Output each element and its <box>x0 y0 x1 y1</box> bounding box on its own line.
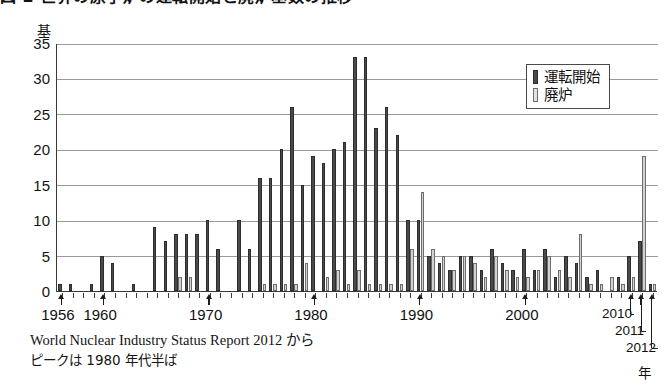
x-tick-1964 <box>147 293 148 298</box>
note-line: ピークは 1980 年代半ば <box>30 351 314 371</box>
bar-start-1995 <box>469 256 473 291</box>
bar-shut-1983 <box>347 284 351 291</box>
bar-start-1956 <box>58 284 62 291</box>
bar-start-1993 <box>448 270 452 291</box>
x-tick-1958 <box>83 293 84 298</box>
gridline-10 <box>57 221 658 222</box>
bar-start-1984 <box>353 57 357 291</box>
bar-shut-2001 <box>537 270 541 291</box>
year-arrow-head-1970 <box>206 294 212 299</box>
y-tick-label-20: 20 <box>16 141 50 158</box>
bar-start-1966 <box>164 241 168 291</box>
bar-shut-2011 <box>642 156 646 291</box>
bar-start-2005 <box>575 263 579 291</box>
year-arrow-head-1960 <box>100 294 106 299</box>
x-tick-2005 <box>579 293 580 298</box>
bar-shut-1986 <box>379 284 383 291</box>
x-tick-1962 <box>126 293 127 298</box>
bar-start-1961 <box>111 263 115 291</box>
x-tick-1987 <box>389 293 390 298</box>
x-tick-1959 <box>94 293 95 298</box>
y-tick-label-10: 10 <box>16 212 50 229</box>
x-axis-year-label-1970: 1970 <box>189 306 222 323</box>
legend-swatch-start-icon <box>533 70 538 84</box>
y-tick-label-35: 35 <box>16 35 50 52</box>
bar-start-1976 <box>269 178 273 291</box>
year-arrow-head-2010 <box>628 294 634 299</box>
y-tick-label-30: 30 <box>16 70 50 87</box>
x-axis-year-label-1980: 1980 <box>294 306 327 323</box>
gridline-5 <box>57 256 658 257</box>
bar-start-1973 <box>237 220 241 291</box>
x-tick-1969 <box>199 293 200 298</box>
bar-start-1967 <box>174 234 178 291</box>
legend-item-shut: 廃炉 <box>533 86 600 104</box>
x-tick-2008 <box>611 293 612 298</box>
bar-start-1975 <box>258 178 262 291</box>
legend-swatch-shut-icon <box>533 88 538 102</box>
bar-shut-1975 <box>263 284 267 291</box>
x-tick-1972 <box>231 293 232 298</box>
bar-shut-2007 <box>600 284 604 291</box>
bar-start-1968 <box>185 234 189 291</box>
x-tick-1967 <box>178 293 179 298</box>
x-tick-1978 <box>294 293 295 298</box>
gridline-35 <box>57 44 658 45</box>
bar-shut-1996 <box>484 277 488 291</box>
x-axis-year-label-2010: 2010 <box>598 306 632 321</box>
x-tick-1977 <box>284 293 285 298</box>
x-tick-2009 <box>621 293 622 298</box>
bar-start-1971 <box>216 249 220 292</box>
bar-shut-2003 <box>558 270 562 291</box>
bar-shut-1988 <box>400 284 404 291</box>
x-tick-1974 <box>252 293 253 298</box>
year-arrow-head-1956 <box>58 294 64 299</box>
bar-shut-1998 <box>505 270 509 291</box>
x-tick-1963 <box>136 293 137 298</box>
x-tick-1996 <box>484 293 485 298</box>
bar-shut-1985 <box>368 284 372 291</box>
x-axis-year-label-1960: 1960 <box>83 306 116 323</box>
bar-start-2012 <box>649 284 653 291</box>
bar-start-2003 <box>554 277 558 291</box>
bar-shut-2010 <box>632 277 636 291</box>
bar-shut-1997 <box>494 256 498 291</box>
x-tick-1968 <box>189 293 190 298</box>
bar-shut-1979 <box>305 263 309 291</box>
x-tick-1988 <box>400 293 401 298</box>
bar-shut-1967 <box>178 277 182 291</box>
bar-start-1989 <box>406 220 410 291</box>
bar-shut-2002 <box>547 256 551 291</box>
x-tick-1989 <box>410 293 411 298</box>
bar-start-1990 <box>417 220 421 291</box>
bar-start-1988 <box>396 135 400 291</box>
bar-shut-1981 <box>326 277 330 291</box>
year-arrow-head-2011 <box>638 294 644 299</box>
bar-shut-1989 <box>410 249 414 292</box>
legend-item-start: 運転開始 <box>533 68 600 86</box>
bar-start-2011 <box>638 241 642 291</box>
gridline-25 <box>57 114 658 115</box>
y-tick-label-25: 25 <box>16 106 50 123</box>
bar-shut-2005 <box>579 234 583 291</box>
y-tick-label-5: 5 <box>16 248 50 265</box>
year-arrow-head-2000 <box>522 294 528 299</box>
gridline-15 <box>57 185 658 186</box>
bar-start-2004 <box>564 256 568 291</box>
bar-start-1992 <box>438 263 442 291</box>
x-tick-1998 <box>505 293 506 298</box>
bar-start-2001 <box>533 270 537 291</box>
x-tick-2004 <box>568 293 569 298</box>
bar-start-2007 <box>596 270 600 291</box>
x-tick-1979 <box>305 293 306 298</box>
y-tick-label-0: 0 <box>16 283 50 300</box>
bar-shut-2009 <box>621 284 625 291</box>
x-axis-year-label-1990: 1990 <box>400 306 433 323</box>
bar-shut-1990 <box>421 192 425 291</box>
bar-shut-1978 <box>294 284 298 291</box>
x-tick-1957 <box>73 293 74 298</box>
gridline-20 <box>57 150 658 151</box>
bar-start-1985 <box>364 57 368 291</box>
x-axis-year-label-2011: 2011 <box>610 323 644 338</box>
bar-start-1960 <box>100 256 104 291</box>
